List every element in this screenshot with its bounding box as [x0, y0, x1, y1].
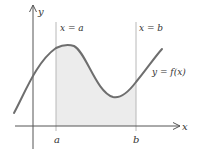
tick-label-b: b — [133, 134, 139, 145]
y-axis-label: y — [37, 6, 44, 17]
curve-label: y = f(x) — [151, 67, 186, 77]
line-a-label: x = a — [60, 23, 84, 33]
x-axis-label: x — [182, 121, 188, 132]
line-b-label: x = b — [139, 23, 163, 33]
shaded-area-region — [56, 45, 136, 126]
tick-label-a: a — [54, 134, 60, 145]
area-under-curve-diagram: y x x = a x = b y = f(x) a b — [0, 0, 197, 159]
